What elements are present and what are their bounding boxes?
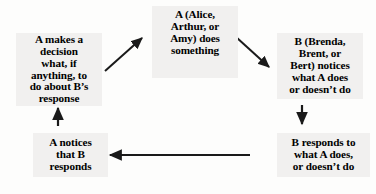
interaction-cycle-diagram: A (Alice, Arthur, or Amy) does something…	[0, 0, 376, 194]
edge-a-decides-to-a-does-arrow	[105, 38, 142, 71]
edge-a-does-to-b-notices-arrow	[236, 37, 269, 67]
node-b-responds: B responds to what A does, or doesn’t do	[277, 133, 370, 177]
node-b-notices: B (Brenda, Brent, or Bert) notices what …	[277, 33, 363, 99]
node-a-decides: A makes a decision what, if anything, to…	[16, 33, 102, 106]
node-a-notices: A notices that B responds	[33, 133, 108, 177]
node-a-does-something: A (Alice, Arthur, or Amy) does something	[152, 6, 238, 78]
